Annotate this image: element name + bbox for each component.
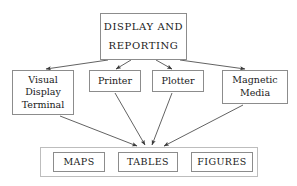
node-figures[interactable]: FIGURES (191, 152, 253, 172)
node-label-line: MAPS (63, 156, 94, 169)
edge-root-to-magnetic (180, 60, 245, 69)
node-printer[interactable]: Printer (89, 70, 141, 92)
node-label-line: Media (240, 87, 270, 100)
node-maps[interactable]: MAPS (53, 152, 105, 172)
node-visual-display-terminal[interactable]: Visual Display Terminal (12, 70, 74, 115)
node-display-and-reporting[interactable]: DISPLAY AND REPORTING (100, 13, 187, 60)
node-label-line: FIGURES (197, 156, 246, 169)
node-label-line: Display (25, 86, 61, 99)
edge-root-to-printer (116, 60, 131, 69)
node-label-line: Printer (98, 75, 132, 88)
edge-vdt-to-outputs (60, 116, 137, 146)
node-label-line: TABLES (127, 156, 169, 169)
flow-diagram: DISPLAY AND REPORTING Visual Display Ter… (0, 0, 297, 186)
node-label-line: Plotter (162, 75, 195, 88)
edge-root-to-vdt (46, 60, 108, 69)
edge-magnetic-to-outputs (164, 105, 243, 146)
node-label-line: DISPLAY AND (104, 18, 183, 37)
node-magnetic-media[interactable]: Magnetic Media (222, 70, 288, 104)
node-label-line: Magnetic (232, 74, 277, 87)
node-label-line: REPORTING (109, 37, 179, 56)
node-label-line: Terminal (22, 99, 65, 112)
node-tables[interactable]: TABLES (118, 152, 178, 172)
edge-root-to-plotter (156, 60, 172, 69)
node-label-line: Visual (28, 74, 57, 87)
node-plotter[interactable]: Plotter (152, 70, 204, 92)
edge-plotter-to-outputs (152, 93, 172, 145)
edge-printer-to-outputs (115, 93, 145, 145)
